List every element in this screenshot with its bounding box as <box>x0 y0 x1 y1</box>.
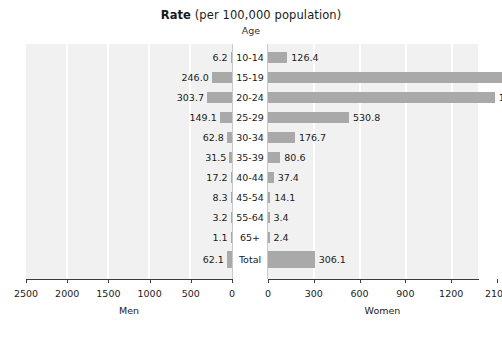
women-value-label: 530.8 <box>353 112 380 124</box>
women-axis-tick <box>405 279 406 283</box>
chart-row: 62.830-34176.7 <box>0 128 502 148</box>
women-bar <box>268 251 315 268</box>
women-value-label: 80.6 <box>284 152 305 164</box>
women-axis-tick <box>360 279 361 283</box>
women-bar <box>268 92 495 103</box>
age-group-label: 10-14 <box>232 52 268 64</box>
men-value-label: 1.1 <box>212 232 227 244</box>
women-bar <box>268 112 349 123</box>
men-value-label: 246.0 <box>182 72 209 84</box>
age-group-label: 65+ <box>232 232 268 244</box>
women-axis-tick-label: 2100 <box>485 288 502 299</box>
women-value-label: 176.7 <box>299 132 326 144</box>
women-axis-tick-label: 1200 <box>439 288 463 299</box>
women-bar <box>268 152 280 163</box>
women-axis-tick-label: 0 <box>265 288 271 299</box>
women-value-label: 306.1 <box>319 254 346 266</box>
women-axis-tick <box>268 279 269 283</box>
women-axis-tick-label: 600 <box>351 288 369 299</box>
chart-row: 149.125-29530.8 <box>0 108 502 128</box>
women-bar <box>268 132 295 143</box>
age-group-label: 20-24 <box>232 92 268 104</box>
chart-row: 6.210-14126.4 <box>0 48 502 68</box>
women-value-label: 14.1 <box>274 192 295 204</box>
age-group-label: 55-64 <box>232 212 268 224</box>
men-value-label: 8.3 <box>212 192 227 204</box>
chart-row: 1.165+2.4 <box>0 228 502 248</box>
women-value-label: 37.4 <box>278 172 299 184</box>
chart-row: 246.015-192,068.6 <box>0 68 502 88</box>
chart-row-total: 62.1Total306.1 <box>0 248 502 272</box>
men-value-label: 303.7 <box>177 92 204 104</box>
men-axis-tick-label: 500 <box>182 288 200 299</box>
men-axis-line <box>26 279 233 280</box>
women-bar <box>268 52 287 63</box>
women-bar <box>268 192 270 203</box>
women-axis-line <box>268 279 479 280</box>
chart-row: 8.345-5414.1 <box>0 188 502 208</box>
age-group-label: 15-19 <box>232 72 268 84</box>
men-axis-tick-label: 2000 <box>55 288 79 299</box>
men-axis-title: Men <box>119 305 139 316</box>
chart-title-strong: Rate <box>161 8 191 22</box>
chart-row: 303.720-241,485.2 <box>0 88 502 108</box>
women-value-label: 2.4 <box>274 232 289 244</box>
chart-row: 31.535-3980.6 <box>0 148 502 168</box>
age-group-label: 40-44 <box>232 172 268 184</box>
women-axis-tick <box>451 279 452 283</box>
men-value-label: 62.1 <box>203 254 224 266</box>
center-column-header: Age <box>0 25 502 36</box>
age-group-label: Total <box>232 254 268 266</box>
chart-title-rest: (per 100,000 population) <box>191 8 341 22</box>
age-group-label: 30-34 <box>232 132 268 144</box>
men-axis-tick-label: 1000 <box>138 288 162 299</box>
men-value-label: 149.1 <box>190 112 217 124</box>
men-axis-tick <box>191 279 192 283</box>
age-group-label: 35-39 <box>232 152 268 164</box>
men-axis-tick-label: 0 <box>229 288 235 299</box>
women-axis-tick-label: 900 <box>396 288 414 299</box>
women-bar <box>268 232 270 243</box>
men-bar <box>207 92 232 103</box>
men-value-label: 31.5 <box>205 152 226 164</box>
women-value-label: 3.4 <box>274 212 289 224</box>
men-value-label: 62.8 <box>203 132 224 144</box>
women-axis-tick <box>497 279 498 283</box>
men-axis-tick <box>232 279 233 283</box>
men-bar <box>220 112 232 123</box>
men-value-label: 3.2 <box>212 212 227 224</box>
women-bar <box>268 212 270 223</box>
men-axis-tick <box>108 279 109 283</box>
women-axis-tick-label: 300 <box>305 288 323 299</box>
women-bar <box>268 72 502 83</box>
women-bar <box>268 172 274 183</box>
men-axis-tick <box>26 279 27 283</box>
chart-title: Rate (per 100,000 population) <box>0 8 502 22</box>
men-axis-tick <box>67 279 68 283</box>
men-axis-tick-label: 1500 <box>96 288 120 299</box>
chart-page: Rate (per 100,000 population) Age 6.210-… <box>0 0 502 343</box>
men-value-label: 6.2 <box>212 52 227 64</box>
chart-row: 3.255-643.4 <box>0 208 502 228</box>
women-value-label: 126.4 <box>291 52 318 64</box>
women-axis-title: Women <box>365 305 401 316</box>
men-bar <box>212 72 232 83</box>
men-axis-tick-label: 2500 <box>14 288 38 299</box>
men-value-label: 17.2 <box>206 172 227 184</box>
age-group-label: 45-54 <box>232 192 268 204</box>
women-axis-tick <box>314 279 315 283</box>
chart-row: 17.240-4437.4 <box>0 168 502 188</box>
men-axis-tick <box>150 279 151 283</box>
age-group-label: 25-29 <box>232 112 268 124</box>
